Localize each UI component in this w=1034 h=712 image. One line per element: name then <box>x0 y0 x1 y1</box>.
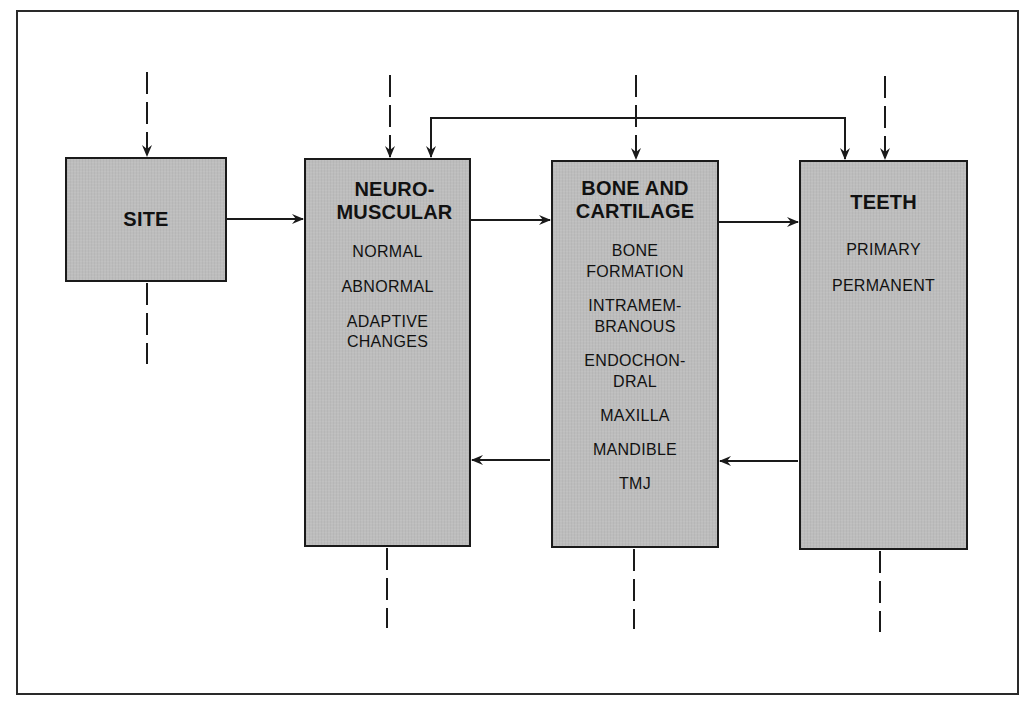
title-line: CARTILAGE <box>553 200 717 223</box>
item-line: PRIMARY <box>801 240 966 260</box>
box-site: SITE <box>65 157 227 282</box>
list-item: ENDOCHON- DRAL <box>553 350 717 392</box>
overhead-arrow-to-teeth <box>640 118 845 159</box>
item-line: MANDIBLE <box>553 439 717 460</box>
item-line: PERMANENT <box>801 276 966 296</box>
box-bone-cartilage-title: BONE AND CARTILAGE <box>553 177 717 223</box>
overhead-link <box>431 118 845 159</box>
box-site-title-line: SITE <box>67 208 225 231</box>
item-line: ADAPTIVE <box>306 312 469 332</box>
title-line: MUSCULAR <box>320 201 469 224</box>
item-line: TMJ <box>553 473 717 494</box>
box-teeth-items: PRIMARY PERMANENT <box>801 240 966 296</box>
dashed-output-lines <box>147 283 880 632</box>
item-line: INTRAMEM- <box>553 295 717 316</box>
list-item: INTRAMEM- BRANOUS <box>553 295 717 337</box>
title-line: BONE AND <box>553 177 717 200</box>
item-line: ENDOCHON- <box>553 350 717 371</box>
list-item: PRIMARY PERMANENT <box>801 240 966 296</box>
list-item: ADAPTIVE CHANGES <box>306 312 469 352</box>
dashed-input-arrows <box>147 72 885 159</box>
box-teeth-title: TEETH <box>801 191 966 214</box>
overhead-arrow-to-neuromuscular <box>431 118 640 157</box>
item-line: CHANGES <box>306 332 469 352</box>
list-item: ABNORMAL <box>306 277 469 297</box>
list-item: TMJ <box>553 473 717 494</box>
item-line: BONE <box>553 240 717 261</box>
item-line: ABNORMAL <box>306 277 469 297</box>
list-item: MANDIBLE <box>553 439 717 460</box>
list-item: MAXILLA <box>553 405 717 426</box>
item-line: BRANOUS <box>553 316 717 337</box>
item-line: DRAL <box>553 371 717 392</box>
item-line: MAXILLA <box>553 405 717 426</box>
box-site-title: SITE <box>67 208 225 231</box>
box-neuromuscular-title: NEURO- MUSCULAR <box>306 178 469 224</box>
list-item: NORMAL <box>306 242 469 262</box>
title-line: NEURO- <box>320 178 469 201</box>
list-item: BONE FORMATION <box>553 240 717 282</box>
box-neuromuscular-items: NORMAL ABNORMAL ADAPTIVE CHANGES <box>306 242 469 352</box>
box-bone-cartilage: BONE AND CARTILAGE BONE FORMATION INTRAM… <box>551 160 719 548</box>
item-line: NORMAL <box>306 242 469 262</box>
box-neuromuscular: NEURO- MUSCULAR NORMAL ABNORMAL ADAPTIVE… <box>304 158 471 547</box>
title-line: TEETH <box>801 191 966 214</box>
box-teeth: TEETH PRIMARY PERMANENT <box>799 160 968 550</box>
box-bone-cartilage-items: BONE FORMATION INTRAMEM- BRANOUS ENDOCHO… <box>553 240 717 494</box>
item-line: FORMATION <box>553 261 717 282</box>
